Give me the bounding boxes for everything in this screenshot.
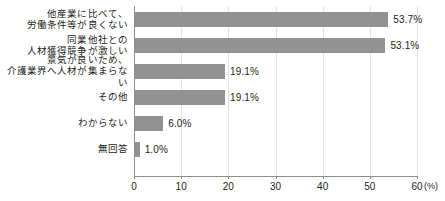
bar-rows: 他産業に比べて、 労働条件等が良くない53.7%同業他社との 人材獲得競争が激し…	[0, 0, 445, 176]
tick-mark	[181, 176, 182, 179]
x-tick-label: 20	[223, 181, 234, 192]
bar	[135, 142, 140, 157]
x-tick-label: 30	[270, 181, 281, 192]
bar-value-label: 53.7%	[393, 14, 422, 25]
tick-mark	[417, 176, 418, 179]
bar-row: 他産業に比べて、 労働条件等が良くない53.7%	[0, 6, 445, 32]
bar-value-label: 6.0%	[168, 118, 191, 129]
category-label: 無回答	[0, 143, 128, 155]
x-tick-label: 0	[131, 181, 137, 192]
bar	[135, 90, 225, 105]
x-axis-ticks: (%) 0102030405060	[0, 176, 445, 201]
tick-mark	[323, 176, 324, 179]
category-label: わからない	[0, 117, 128, 129]
bar-value-label: 53.1%	[390, 40, 419, 51]
bar-row: その他19.1%	[0, 84, 445, 110]
x-axis-unit-label: (%)	[424, 181, 438, 191]
bar-chart: 他産業に比べて、 労働条件等が良くない53.7%同業他社との 人材獲得競争が激し…	[0, 0, 445, 201]
category-label: 他産業に比べて、 労働条件等が良くない	[0, 8, 128, 31]
x-tick-label: 40	[317, 181, 328, 192]
tick-mark	[228, 176, 229, 179]
bar-row: 無回答1.0%	[0, 136, 445, 162]
x-tick-label: 60	[411, 181, 422, 192]
bar	[135, 38, 385, 53]
bar-container: 19.1%	[135, 58, 259, 84]
bar-value-label: 1.0%	[145, 144, 168, 155]
bar-container: 6.0%	[135, 110, 192, 136]
bar-container: 19.1%	[135, 84, 259, 110]
bar-row: わからない6.0%	[0, 110, 445, 136]
bar-container: 53.1%	[135, 32, 419, 58]
bar-container: 1.0%	[135, 136, 168, 162]
bar	[135, 116, 163, 131]
tick-mark	[370, 176, 371, 179]
bar	[135, 12, 388, 27]
x-tick-label: 50	[364, 181, 375, 192]
bar-row: 景気が良いため、 介護業界へ人材が集まらない19.1%	[0, 58, 445, 84]
tick-mark	[276, 176, 277, 179]
bar-value-label: 19.1%	[230, 66, 259, 77]
category-label: その他	[0, 91, 128, 103]
tick-mark	[134, 176, 135, 179]
bar	[135, 64, 225, 79]
x-tick-label: 10	[176, 181, 187, 192]
bar-container: 53.7%	[135, 6, 422, 32]
bar-value-label: 19.1%	[230, 92, 259, 103]
